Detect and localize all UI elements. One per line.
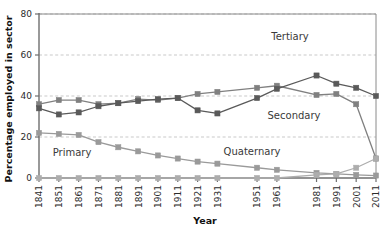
data-point-tertiary-1951: [254, 95, 259, 100]
x-tick-label-1861: 1861: [74, 185, 84, 208]
data-point-primary-1871: [96, 140, 101, 145]
data-point-quaternary-1961: [274, 175, 279, 180]
line-chart: 020406080 184118511861187118811891190119…: [0, 0, 382, 229]
x-tick-label-1901: 1901: [153, 185, 163, 208]
series-quaternary: [36, 156, 378, 181]
y-tick-label-60: 60: [21, 50, 33, 60]
annotation-secondary: Secondary: [268, 110, 321, 121]
data-point-primary-1931: [215, 161, 220, 166]
data-point-quaternary-1951: [254, 175, 259, 180]
x-tick-label-1871: 1871: [94, 185, 104, 208]
y-tick-label-0: 0: [26, 173, 32, 183]
data-point-quaternary-1891: [136, 175, 141, 180]
x-tick-label-1881: 1881: [114, 185, 124, 208]
x-axis-title: Year: [192, 215, 217, 226]
x-tick-label-1931: 1931: [213, 185, 223, 208]
data-point-tertiary-1921: [195, 108, 200, 113]
data-point-quaternary-1871: [96, 175, 101, 180]
data-point-quaternary-2001: [354, 165, 359, 170]
data-point-primary-1901: [155, 153, 160, 158]
data-point-quaternary-1981: [314, 172, 319, 177]
data-point-quaternary-1881: [116, 175, 121, 180]
chart-container: 020406080 184118511861187118811891190119…: [0, 0, 382, 229]
data-point-quaternary-1901: [155, 175, 160, 180]
data-point-tertiary-2011: [373, 93, 378, 98]
x-tick-label-1891: 1891: [134, 185, 144, 208]
data-point-tertiary-1841: [36, 106, 41, 111]
y-axis-title: Percentage employed in sector: [3, 15, 14, 182]
data-point-primary-1851: [56, 131, 61, 136]
data-point-tertiary-1901: [155, 96, 160, 101]
data-point-tertiary-1981: [314, 73, 319, 78]
gridlines-group: [39, 14, 376, 137]
x-tick-label-2011: 2011: [371, 185, 381, 208]
data-point-tertiary-1881: [116, 101, 121, 106]
x-tick-label-1921: 1921: [193, 185, 203, 208]
x-tick-label-1951: 1951: [252, 185, 262, 208]
data-point-tertiary-1911: [175, 95, 180, 100]
data-point-tertiary-1891: [136, 99, 141, 104]
data-point-secondary-1861: [76, 98, 81, 103]
y-tick-label-20: 20: [21, 132, 33, 142]
data-point-quaternary-2011: [373, 156, 378, 161]
data-point-tertiary-1851: [56, 112, 61, 117]
data-point-primary-1881: [116, 145, 121, 150]
data-point-primary-2011: [373, 173, 378, 178]
x-tick-label-1851: 1851: [54, 185, 64, 208]
data-point-secondary-1851: [56, 98, 61, 103]
x-tick-label-1961: 1961: [272, 185, 282, 208]
data-point-secondary-1951: [254, 85, 259, 90]
data-point-quaternary-1911: [175, 175, 180, 180]
data-point-tertiary-1861: [76, 110, 81, 115]
data-point-secondary-1981: [314, 92, 319, 97]
data-point-tertiary-1931: [215, 111, 220, 116]
data-point-tertiary-1961: [274, 86, 279, 91]
x-tick-label-1911: 1911: [173, 185, 183, 208]
data-point-primary-2001: [354, 172, 359, 177]
data-point-quaternary-1921: [195, 175, 200, 180]
x-tick-label-1841: 1841: [34, 185, 44, 208]
x-axis: 1841185118611871188118911901191119211931…: [34, 178, 381, 208]
data-point-quaternary-1841: [36, 175, 41, 180]
data-point-primary-1961: [274, 167, 279, 172]
data-point-primary-1921: [195, 159, 200, 164]
data-point-primary-1951: [254, 165, 259, 170]
data-point-secondary-1931: [215, 89, 220, 94]
data-series-group: [36, 73, 378, 181]
annotation-quaternary: Quaternary: [224, 146, 281, 157]
data-point-quaternary-1931: [215, 175, 220, 180]
x-tick-label-1981: 1981: [312, 185, 322, 208]
annotation-primary: Primary: [53, 147, 92, 158]
data-point-primary-1841: [36, 130, 41, 135]
series-annotations: TertiarySecondaryQuaternaryPrimary: [53, 31, 321, 158]
data-point-secondary-1921: [195, 91, 200, 96]
data-point-tertiary-2001: [354, 85, 359, 90]
data-point-quaternary-1991: [334, 171, 339, 176]
annotation-tertiary: Tertiary: [270, 31, 309, 42]
data-point-tertiary-1991: [334, 81, 339, 86]
y-axis: 020406080: [21, 9, 39, 183]
data-point-primary-1891: [136, 149, 141, 154]
data-point-secondary-2001: [354, 102, 359, 107]
data-point-primary-1911: [175, 156, 180, 161]
data-point-quaternary-1861: [76, 175, 81, 180]
data-point-quaternary-1851: [56, 175, 61, 180]
series-line-quaternary: [39, 159, 376, 178]
y-tick-label-80: 80: [21, 9, 33, 19]
x-tick-label-1991: 1991: [332, 185, 342, 208]
x-tick-label-2001: 2001: [352, 185, 362, 208]
data-point-tertiary-1871: [96, 104, 101, 109]
y-tick-label-40: 40: [21, 91, 33, 101]
data-point-secondary-1991: [334, 91, 339, 96]
data-point-primary-1861: [76, 132, 81, 137]
